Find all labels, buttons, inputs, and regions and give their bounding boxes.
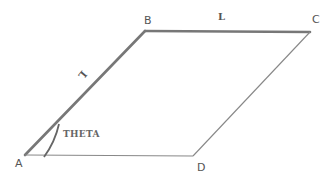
side-label-ab: L: [76, 69, 89, 81]
side-label-bc: L: [218, 11, 225, 22]
diagram-svg: A B C D L L THETA: [0, 0, 335, 176]
vertex-label-c: C: [312, 13, 320, 26]
parallelogram-diagram: A B C D L L THETA: [0, 0, 335, 176]
vertex-label-b: B: [144, 14, 152, 27]
edge-bc: [145, 31, 310, 32]
edge-da: [25, 155, 193, 156]
vertex-label-d: D: [197, 161, 205, 174]
angle-label-theta: THETA: [63, 129, 100, 139]
vertex-label-a: A: [15, 157, 23, 170]
edge-cd: [193, 32, 310, 156]
